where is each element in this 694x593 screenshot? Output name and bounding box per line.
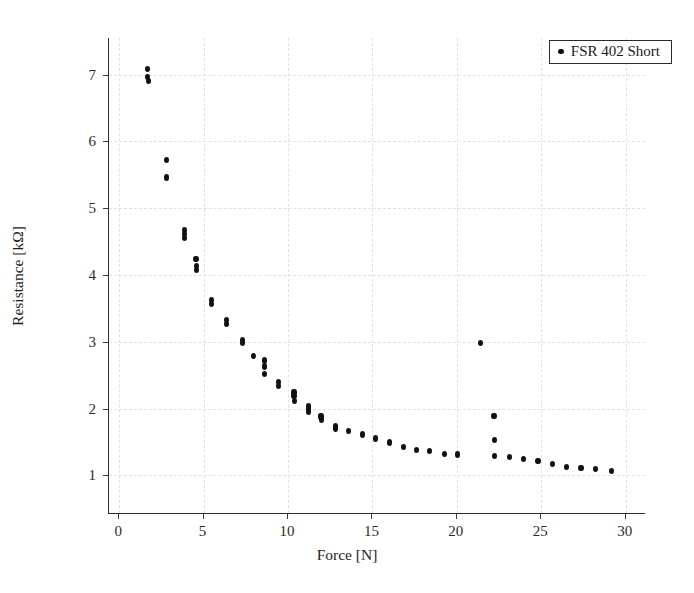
data-point [276, 383, 281, 389]
scatter-plot-figure: 051015202530 1234567 Force [N] Resistanc… [0, 0, 694, 593]
x-tick-mark [456, 514, 457, 519]
x-tick-label: 30 [617, 523, 632, 540]
x-tick-label: 15 [364, 523, 379, 540]
gridline-horizontal [109, 342, 645, 343]
x-tick-mark [540, 514, 541, 519]
x-tick-mark [287, 514, 288, 519]
x-tick-label: 20 [448, 523, 463, 540]
data-point [164, 174, 169, 180]
legend-entry-label: FSR 402 Short [571, 44, 660, 59]
data-point [319, 417, 324, 423]
data-point [346, 428, 351, 434]
y-tick-label: 5 [70, 200, 96, 217]
data-point [373, 435, 378, 441]
data-point [492, 437, 497, 443]
data-point [564, 464, 569, 470]
data-point [578, 465, 583, 471]
data-point [145, 66, 150, 72]
y-tick-label: 2 [70, 400, 96, 417]
data-point [209, 301, 214, 307]
x-tick-label: 10 [280, 523, 295, 540]
data-point [387, 439, 392, 445]
x-tick-mark [203, 514, 204, 519]
y-tick-label: 4 [70, 266, 96, 283]
data-point [306, 409, 311, 415]
data-point [262, 363, 267, 369]
x-tick-mark [118, 514, 119, 519]
data-point [292, 398, 297, 404]
y-axis-label: Resistance [kΩ] [9, 226, 27, 326]
data-point [550, 461, 555, 467]
data-point [360, 431, 365, 437]
y-tick-mark [103, 141, 108, 142]
legend-box: FSR 402 Short [549, 40, 672, 64]
data-point [492, 453, 497, 459]
data-point [146, 78, 151, 84]
x-tick-mark [625, 514, 626, 519]
x-axis-label: Force [N] [0, 546, 694, 564]
data-point [251, 353, 256, 359]
y-tick-mark [103, 475, 108, 476]
gridline-horizontal [109, 475, 645, 476]
data-point [507, 454, 512, 460]
data-point [478, 340, 483, 346]
y-tick-mark [103, 75, 108, 76]
data-point [491, 413, 496, 419]
data-point [401, 444, 406, 450]
plot-area [109, 38, 645, 513]
data-point [164, 157, 169, 163]
data-point [593, 466, 598, 472]
x-tick-mark [371, 514, 372, 519]
data-point [262, 371, 267, 377]
data-point [182, 235, 187, 241]
data-point [240, 340, 245, 346]
data-point [414, 447, 419, 453]
plot-frame [108, 38, 645, 514]
gridline-horizontal [109, 275, 645, 276]
y-tick-label: 3 [70, 333, 96, 350]
x-tick-label: 0 [114, 523, 122, 540]
y-tick-mark [103, 208, 108, 209]
data-point [535, 458, 540, 464]
gridline-horizontal [109, 141, 645, 142]
x-tick-label: 5 [199, 523, 207, 540]
data-point [224, 321, 229, 327]
data-point [333, 425, 338, 431]
data-point [609, 468, 614, 474]
y-tick-mark [103, 409, 108, 410]
data-point [193, 256, 198, 262]
x-tick-label: 25 [533, 523, 548, 540]
dot-marker-icon [558, 49, 563, 54]
gridline-horizontal [109, 75, 645, 76]
y-tick-label: 1 [70, 467, 96, 484]
data-point [427, 448, 432, 454]
data-point [194, 267, 199, 273]
y-tick-label: 6 [70, 133, 96, 150]
data-point [442, 451, 447, 457]
data-point [521, 456, 526, 462]
y-tick-mark [103, 342, 108, 343]
y-tick-label: 7 [70, 66, 96, 83]
y-tick-mark [103, 275, 108, 276]
gridline-horizontal [109, 208, 645, 209]
data-point [455, 451, 460, 457]
gridline-horizontal [109, 409, 645, 410]
